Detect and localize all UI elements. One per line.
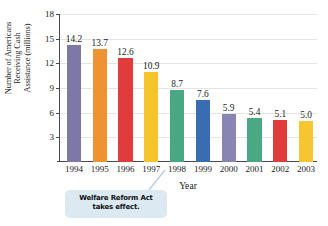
callout-pointer-icon bbox=[148, 168, 172, 192]
x-tick-label: 1994 bbox=[65, 164, 83, 174]
bar-value-label: 5.9 bbox=[223, 103, 235, 113]
bar-group: 10.9 bbox=[144, 14, 158, 162]
bar-value-label: 8.7 bbox=[171, 79, 183, 89]
bar: 5.9 bbox=[222, 114, 236, 163]
bar-value-label: 5.4 bbox=[249, 107, 261, 117]
bar-value-label: 12.6 bbox=[117, 47, 133, 57]
x-tick-label: 1995 bbox=[91, 164, 109, 174]
y-tick-label: 6 bbox=[50, 108, 55, 118]
x-tick-label: 2001 bbox=[246, 164, 264, 174]
y-tick-label: 15 bbox=[45, 34, 54, 44]
bar: 5.4 bbox=[247, 118, 261, 162]
callout-line-2: takes effect. bbox=[68, 203, 164, 212]
y-tick-label: 18 bbox=[45, 9, 54, 19]
bar-value-label: 5.1 bbox=[274, 109, 286, 119]
bar-value-label: 5.0 bbox=[300, 110, 312, 120]
bar: 7.6 bbox=[196, 100, 210, 162]
bar-value-label: 7.6 bbox=[197, 89, 209, 99]
bar-group: 14.2 bbox=[67, 14, 81, 162]
y-axis-title: Number of Americans Receiving Cash Assis… bbox=[0, 0, 38, 128]
bar-group: 5.9 bbox=[222, 14, 236, 162]
x-tick-label: 2002 bbox=[271, 164, 289, 174]
x-tick-label: 1996 bbox=[117, 164, 135, 174]
x-tick-label: 1999 bbox=[194, 164, 212, 174]
bar: 5.0 bbox=[299, 121, 313, 162]
plot-area: 369121518 14.213.712.610.98.77.65.95.45.… bbox=[59, 14, 317, 162]
y-tick-label: 9 bbox=[50, 83, 55, 93]
bar-group: 5.0 bbox=[299, 14, 313, 162]
bar: 13.7 bbox=[93, 49, 107, 162]
bar-value-label: 13.7 bbox=[91, 38, 107, 48]
bar-group: 8.7 bbox=[170, 14, 184, 162]
x-tick-label: 2000 bbox=[220, 164, 238, 174]
bar: 5.1 bbox=[273, 120, 287, 162]
y-axis-title-line-2: Receiving Cash bbox=[13, 32, 22, 83]
bar: 10.9 bbox=[144, 72, 158, 162]
y-axis-title-line-3: Assistance (millions) bbox=[23, 24, 32, 93]
x-axis-tick-labels: 1994199519961997199819992000200120022003 bbox=[59, 164, 317, 178]
bar: 14.2 bbox=[67, 45, 81, 162]
y-tick-label: 3 bbox=[50, 132, 55, 142]
bar-group: 13.7 bbox=[93, 14, 107, 162]
bar-group: 5.1 bbox=[273, 14, 287, 162]
bar-group: 7.6 bbox=[196, 14, 210, 162]
bar: 8.7 bbox=[170, 90, 184, 162]
bar: 12.6 bbox=[118, 58, 132, 162]
callout-line-1: Welfare Reform Act bbox=[68, 194, 164, 203]
x-tick-label: 2003 bbox=[297, 164, 315, 174]
bar-group: 5.4 bbox=[247, 14, 261, 162]
bar-value-label: 14.2 bbox=[66, 34, 82, 44]
bar-group: 12.6 bbox=[118, 14, 132, 162]
bar-series: 14.213.712.610.98.77.65.95.45.15.0 bbox=[59, 14, 317, 162]
bar-chart: Number of Americans Receiving Cash Assis… bbox=[0, 0, 328, 226]
y-axis-title-line-1: Number of Americans bbox=[4, 22, 13, 95]
bar-value-label: 10.9 bbox=[143, 61, 159, 71]
welfare-reform-callout: Welfare Reform Act takes effect. bbox=[65, 190, 167, 218]
y-tick-label: 12 bbox=[45, 58, 54, 68]
